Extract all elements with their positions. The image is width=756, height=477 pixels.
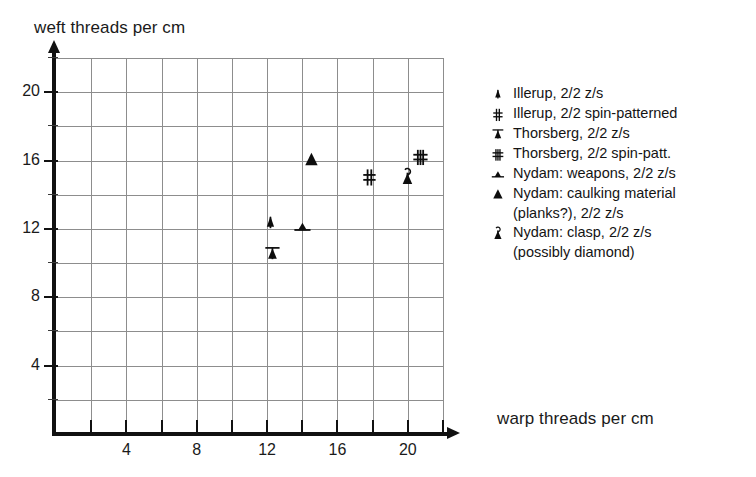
- gridline-horizontal: [56, 229, 443, 230]
- x-axis-tick: [372, 420, 374, 434]
- gridline-vertical: [91, 58, 92, 434]
- x-tick-label-12: 12: [250, 441, 284, 459]
- gridline-vertical: [373, 58, 374, 434]
- legend-label: Nydam: caulking material: [513, 184, 676, 203]
- x-axis-tick: [336, 420, 338, 434]
- gridline-horizontal: [56, 297, 443, 298]
- x-axis-title: warp threads per cm: [497, 409, 654, 429]
- gridline-vertical: [197, 58, 198, 434]
- legend-entry: Thorsberg, 2/2 spin-patt.: [487, 144, 749, 163]
- y-axis-tick: [44, 296, 58, 298]
- x-axis-tick: [407, 420, 409, 434]
- x-axis-arrow-icon: [447, 427, 460, 439]
- gridline-horizontal: [56, 126, 443, 127]
- x-tick-label-20: 20: [391, 441, 425, 459]
- y-tick-label-12: 12: [6, 219, 40, 237]
- y-axis-tick: [48, 262, 58, 263]
- legend-label-continuation: (planks?), 2/2 z/s: [487, 204, 749, 223]
- x-axis-tick: [196, 420, 198, 434]
- legend-entry: Nydam: weapons, 2/2 z/s: [487, 164, 749, 183]
- y-tick-label-20: 20: [6, 82, 40, 100]
- legend-label: Illerup, 2/2 z/s: [513, 84, 603, 103]
- gridline-vertical: [302, 58, 303, 434]
- plot-area: [56, 58, 443, 434]
- legend-label: Illerup, 2/2 spin-patterned: [513, 104, 677, 123]
- y-axis-tick: [44, 160, 58, 162]
- y-axis-arrow-icon: [48, 40, 60, 53]
- y-axis-tick: [48, 57, 58, 58]
- x-axis-tick: [90, 420, 92, 434]
- legend-entry: Thorsberg, 2/2 z/s: [487, 124, 749, 143]
- legend-entry: Nydam: caulking material: [487, 184, 749, 203]
- gridline-vertical: [232, 58, 233, 434]
- y-tick-label-8: 8: [6, 287, 40, 305]
- gridline-vertical: [443, 58, 444, 434]
- legend-label: Thorsberg, 2/2 spin-patt.: [513, 144, 671, 163]
- x-axis-tick: [266, 420, 268, 434]
- y-axis-tick: [48, 399, 58, 400]
- legend-marker-triangle-topbar-icon: [487, 124, 513, 143]
- y-axis-title: weft threads per cm: [34, 18, 185, 38]
- legend-marker-triangle-solid-icon: [487, 184, 513, 203]
- gridline-horizontal: [56, 195, 443, 196]
- gridline-vertical: [337, 58, 338, 434]
- legend-entry: Illerup, 2/2 z/s: [487, 84, 749, 103]
- x-tick-label-4: 4: [109, 441, 143, 459]
- legend-entry: Nydam: clasp, 2/2 z/s: [487, 223, 749, 242]
- legend-marker-hash-double-icon: [487, 144, 513, 163]
- y-axis-tick: [48, 330, 58, 331]
- gridline-horizontal: [56, 161, 443, 162]
- x-tick-label-8: 8: [180, 441, 214, 459]
- x-axis-tick: [161, 420, 163, 434]
- gridline-vertical: [126, 58, 127, 434]
- y-axis-tick: [44, 365, 58, 367]
- legend-marker-clasp-icon: [487, 223, 513, 242]
- chart-legend: Illerup, 2/2 z/s Illerup, 2/2 spin-patte…: [487, 84, 749, 261]
- y-axis-tick: [48, 194, 58, 195]
- x-axis-tick: [442, 420, 444, 434]
- legend-marker-triangle-stem-icon: [487, 84, 513, 103]
- x-axis-tick: [301, 420, 303, 434]
- legend-label: Nydam: weapons, 2/2 z/s: [513, 164, 676, 183]
- legend-label-continuation: (possibly diamond): [487, 243, 749, 262]
- gridline-horizontal: [56, 58, 443, 59]
- x-axis-tick: [231, 420, 233, 434]
- legend-marker-triangle-sidebar-icon: [487, 164, 513, 183]
- y-axis-tick: [44, 228, 58, 230]
- legend-entry: Illerup, 2/2 spin-patterned: [487, 104, 749, 123]
- y-tick-label-4: 4: [6, 356, 40, 374]
- gridline-vertical: [162, 58, 163, 434]
- x-axis-tick: [125, 420, 127, 434]
- legend-label: Thorsberg, 2/2 z/s: [513, 124, 630, 143]
- y-axis-tick: [48, 125, 58, 126]
- gridline-horizontal: [56, 366, 443, 367]
- y-axis-tick: [44, 91, 58, 93]
- x-tick-label-16: 16: [320, 441, 354, 459]
- y-axis-line: [52, 52, 56, 436]
- gridline-horizontal: [56, 400, 443, 401]
- gridline-horizontal: [56, 263, 443, 264]
- chart-root: weft threads per cm warp threads per cm …: [0, 0, 756, 477]
- legend-marker-hash-single-icon: [487, 104, 513, 123]
- y-tick-label-16: 16: [6, 151, 40, 169]
- gridline-vertical: [408, 58, 409, 434]
- gridline-horizontal: [56, 331, 443, 332]
- legend-label: Nydam: clasp, 2/2 z/s: [513, 223, 652, 242]
- gridline-horizontal: [56, 92, 443, 93]
- x-axis-line: [52, 432, 451, 436]
